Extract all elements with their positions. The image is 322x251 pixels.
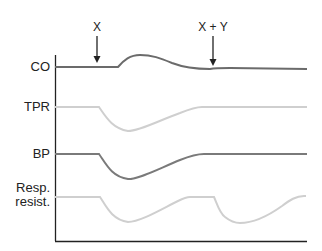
event-x-arrow	[94, 36, 101, 63]
tpr-trace	[55, 107, 307, 131]
tpr-label: TPR	[0, 100, 50, 114]
co-trace	[55, 55, 307, 69]
resp-resist-label: Resp. resist.	[0, 181, 50, 209]
bp-trace	[55, 154, 307, 179]
event-x-label: X	[87, 21, 107, 34]
resp-resist-label-line2: resist.	[0, 195, 50, 209]
bp-label: BP	[0, 147, 50, 161]
response-diagram	[0, 0, 322, 251]
resp-resist-trace	[55, 196, 306, 223]
co-label: CO	[0, 60, 50, 74]
event-x-plus-y-arrow	[210, 36, 217, 66]
event-x-plus-y-label: X + Y	[193, 21, 233, 34]
resp-resist-label-line1: Resp.	[0, 181, 50, 195]
